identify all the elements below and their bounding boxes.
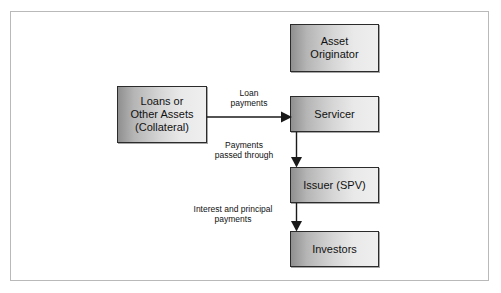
node-loans-line-1: Loans or (120, 95, 204, 108)
node-issuer-line-1: Issuer (SPV) (293, 179, 376, 192)
edge-label-loan-payments-line-2: payments (210, 98, 288, 108)
node-investors-line-1: Investors (293, 243, 376, 256)
node-servicer-label: Servicer (291, 108, 378, 121)
node-servicer-line-1: Servicer (293, 108, 376, 121)
edge-label-payments-passed-line-1: Payments (198, 140, 290, 150)
node-asset-originator[interactable]: Asset Originator (290, 24, 379, 72)
node-asset-originator-line-2: Originator (293, 48, 376, 61)
node-investors[interactable]: Investors (290, 231, 379, 267)
node-issuer-spv[interactable]: Issuer (SPV) (290, 167, 379, 203)
node-loans-line-2: Other Assets (120, 108, 204, 121)
node-servicer[interactable]: Servicer (290, 96, 379, 132)
node-loans-or-other-assets[interactable]: Loans or Other Assets (Collateral) (117, 86, 207, 143)
edge-label-loan-payments-line-1: Loan (210, 88, 288, 98)
node-asset-originator-line-1: Asset (293, 35, 376, 48)
node-issuer-label: Issuer (SPV) (291, 179, 378, 192)
node-loans-label: Loans or Other Assets (Collateral) (118, 95, 206, 134)
edge-label-payments-passed-through: Payments passed through (198, 140, 290, 160)
edge-label-interest-principal-line-2: payments (176, 214, 290, 224)
edge-label-interest-and-principal-payments: Interest and principal payments (176, 204, 290, 224)
securitization-flow-diagram: Asset Originator Loans or Other Assets (… (0, 0, 501, 293)
edge-label-interest-principal-line-1: Interest and principal (176, 204, 290, 214)
edge-label-payments-passed-line-2: passed through (198, 150, 290, 160)
edge-label-loan-payments: Loan payments (210, 88, 288, 108)
node-investors-label: Investors (291, 243, 378, 256)
node-loans-line-3: (Collateral) (120, 121, 204, 134)
node-asset-originator-label: Asset Originator (291, 35, 378, 61)
